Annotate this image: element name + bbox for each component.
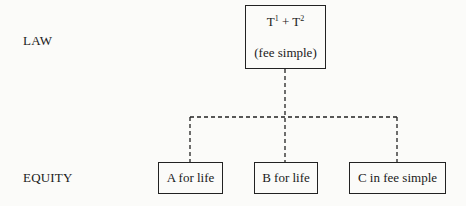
beneficiary-box-b: B for life bbox=[254, 162, 318, 194]
equity-row-label: EQUITY bbox=[23, 170, 73, 186]
legal-holders: T1 + T2 bbox=[267, 14, 305, 30]
law-row-label: LAW bbox=[23, 33, 52, 49]
legal-estate: (fee simple) bbox=[254, 45, 316, 61]
legal-title-box: T1 + T2 (fee simple) bbox=[245, 5, 326, 69]
beneficiary-box-c: C in fee simple bbox=[349, 162, 446, 194]
beneficiary-box-a: A for life bbox=[158, 162, 223, 194]
